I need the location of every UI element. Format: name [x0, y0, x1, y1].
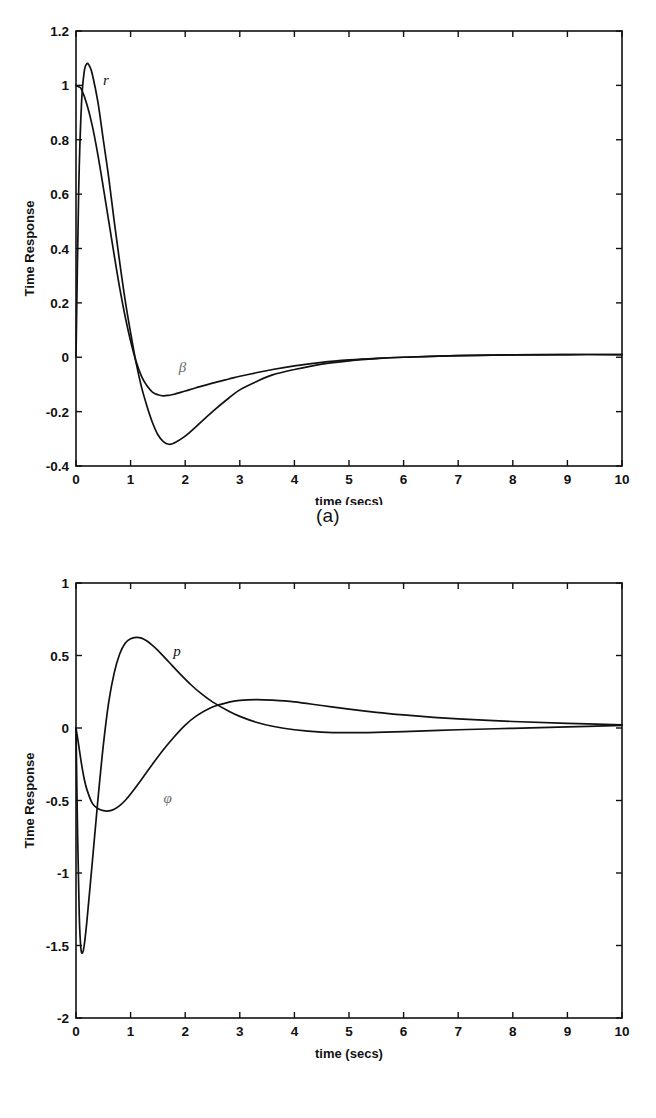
series-line-r — [76, 63, 622, 444]
y-axis-tick-label: 0 — [61, 721, 69, 736]
y-axis-tick-label: 0.8 — [50, 133, 69, 148]
series-line-p — [76, 637, 622, 953]
y-axis-title: Time Response — [22, 201, 37, 297]
y-axis-tick-label: 0.6 — [50, 187, 69, 202]
x-axis-tick-label: 4 — [291, 1024, 299, 1039]
x-axis-tick-label: 8 — [509, 1024, 517, 1039]
y-axis-tick-label: -2 — [57, 1011, 69, 1026]
x-axis-tick-label: 1 — [127, 1024, 135, 1039]
x-axis-tick-label: 2 — [181, 1024, 189, 1039]
y-axis-tick-label: -1.5 — [46, 939, 70, 954]
y-axis-tick-label: -0.2 — [46, 405, 69, 420]
x-axis-tick-label: 0 — [72, 1024, 80, 1039]
panel-a-caption: (a) — [0, 505, 656, 527]
figure-panel-b: 012345678910-2-1.5-1-0.500.51time (secs)… — [0, 552, 656, 1118]
plot-box — [76, 583, 622, 1018]
x-axis-tick-label: 9 — [564, 1024, 572, 1039]
x-axis-tick-label: 1 — [127, 472, 135, 487]
x-axis-tick-label: 7 — [454, 1024, 462, 1039]
x-axis-tick-label: 2 — [181, 472, 189, 487]
y-axis-tick-label: 1.2 — [50, 24, 69, 39]
series-line-φ — [76, 700, 622, 811]
x-axis-tick-label: 10 — [614, 472, 629, 487]
curve-label-p: p — [172, 643, 181, 659]
y-axis-tick-label: 0.4 — [50, 242, 69, 257]
figure-panel-a: 012345678910-0.4-0.200.20.40.60.811.2tim… — [0, 0, 656, 560]
x-axis-tick-label: 5 — [345, 472, 353, 487]
time-response-plot-b: 012345678910-2-1.5-1-0.500.51time (secs)… — [0, 552, 656, 1068]
x-axis-tick-label: 8 — [509, 472, 517, 487]
plot-box — [76, 31, 622, 466]
x-axis-tick-label: 9 — [564, 472, 572, 487]
x-axis-title: time (secs) — [315, 1046, 383, 1061]
x-axis-tick-label: 5 — [345, 1024, 353, 1039]
y-axis-tick-label: 0.5 — [50, 649, 69, 664]
y-axis-tick-label: 1 — [61, 576, 69, 591]
x-axis-title: time (secs) — [315, 494, 383, 505]
x-axis-tick-label: 4 — [291, 472, 299, 487]
y-axis-tick-label: 1 — [61, 78, 69, 93]
x-axis-tick-label: 6 — [400, 472, 408, 487]
x-axis-tick-label: 3 — [236, 472, 244, 487]
y-axis-tick-label: 0.2 — [50, 296, 69, 311]
x-axis-tick-label: 0 — [72, 472, 80, 487]
time-response-plot-a: 012345678910-0.4-0.200.20.40.60.811.2tim… — [0, 0, 656, 505]
curve-label-r: r — [103, 72, 109, 88]
x-axis-tick-label: 6 — [400, 1024, 408, 1039]
series-line-β — [76, 85, 622, 395]
x-axis-tick-label: 7 — [454, 472, 462, 487]
x-axis-tick-label: 3 — [236, 1024, 244, 1039]
y-axis-tick-label: -0.5 — [46, 794, 70, 809]
y-axis-tick-label: -1 — [57, 866, 69, 881]
y-axis-tick-label: 0 — [61, 350, 69, 365]
y-axis-title: Time Response — [22, 753, 37, 849]
x-axis-tick-label: 10 — [614, 1024, 629, 1039]
curve-label-φ: φ — [164, 790, 172, 806]
y-axis-tick-label: -0.4 — [46, 459, 70, 474]
curve-label-β: β — [178, 359, 187, 375]
